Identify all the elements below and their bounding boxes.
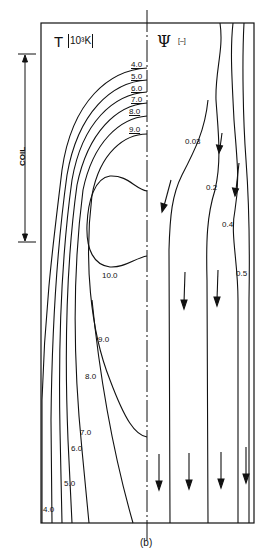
isotherm-label: 6.0	[131, 85, 142, 93]
isotherm-label: 6.0	[71, 445, 82, 453]
isotherms	[42, 68, 147, 523]
isotherm-label-max: 10.0	[102, 272, 118, 280]
isotherm-label: 4.0	[131, 61, 142, 69]
streamline-label: 0.4	[222, 221, 233, 229]
isotherm-9-lower	[92, 300, 133, 523]
isotherm-10	[87, 176, 147, 267]
stream-function-unit: [–]	[178, 37, 186, 44]
isotherm-6	[60, 92, 147, 523]
stream-function-symbol: Ψ	[157, 32, 171, 51]
isotherm-4	[42, 68, 147, 523]
isotherm-label: 4.0	[43, 506, 54, 514]
isotherm-label: 5.0	[64, 480, 75, 488]
coil-label: COIL	[18, 147, 27, 166]
isotherm-label: 9.0	[98, 336, 109, 344]
streamline-label: 0.2	[206, 184, 217, 192]
temperature-symbol: T	[54, 33, 63, 50]
isotherm-8	[75, 116, 147, 523]
isotherm-label: 8.0	[85, 373, 96, 381]
streamline-label: 0.03	[185, 138, 201, 146]
temperature-unit: 10³K	[68, 34, 93, 48]
isotherm-label: 7.0	[80, 429, 91, 437]
figure-caption: (b)	[140, 537, 152, 548]
isotherm-label: 7.0	[131, 96, 142, 104]
streamline-02	[207, 23, 221, 523]
isotherm-label: 9.0	[129, 126, 140, 134]
streamline-label: 0.5	[236, 270, 247, 278]
isotherm-7	[66, 103, 147, 523]
isotherm-9	[89, 134, 147, 437]
isotherm-5	[51, 80, 147, 523]
isotherm-label: 5.0	[131, 73, 142, 81]
isotherm-label: 8.0	[129, 108, 140, 116]
